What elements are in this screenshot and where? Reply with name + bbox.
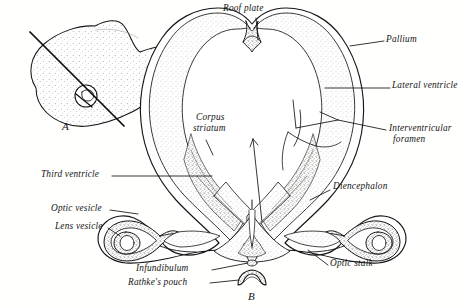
panel-letter-b: B xyxy=(248,290,255,302)
label-infundibulum: Infundibulum xyxy=(136,263,189,273)
label-rathkes-pouch: Rathke's pouch xyxy=(128,277,187,287)
label-interventricular-foramen-line1: Interventricular xyxy=(389,123,452,133)
label-lateral-ventricle: Lateral ventricle xyxy=(392,80,458,90)
label-corpus-striatum-line2: striatum xyxy=(193,123,226,133)
right-lens-vesicle xyxy=(366,232,392,254)
label-lens-vesicle: Lens vesicle xyxy=(55,221,103,231)
anatomical-illustration xyxy=(0,0,474,308)
label-third-ventricle: Third ventricle xyxy=(41,169,99,179)
label-interventricular-foramen-line2: foramen xyxy=(393,134,425,144)
label-pallium: Pallium xyxy=(386,34,417,44)
label-diencephalon: Diencephalon xyxy=(333,181,388,191)
label-roof-plate: Roof plate xyxy=(223,3,263,13)
label-optic-vesicle: Optic vesicle xyxy=(51,203,102,213)
rathkes-pouch xyxy=(238,270,266,285)
panel-letter-a: A xyxy=(62,120,69,132)
figure-canvas: Roof plate Pallium Lateral ventricle Int… xyxy=(0,0,474,308)
left-lens-vesicle xyxy=(114,232,140,254)
label-optic-stalk: Optic stalk xyxy=(330,258,373,268)
label-corpus-striatum-line1: Corpus xyxy=(196,112,225,122)
